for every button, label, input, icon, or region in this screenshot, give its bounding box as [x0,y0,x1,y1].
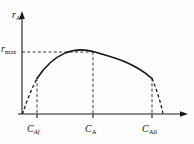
y-axis-label-subscript: A [16,14,21,21]
figure-container: rA rmax CAf CA CA0 [0,0,194,144]
rmax-label-subscript: max [5,48,16,55]
rmax-label: rmax [1,44,16,54]
ca-label-subscript: A [92,128,97,135]
ca-label: CA [85,124,97,134]
ca0-label: CA0 [142,124,157,134]
caf-label: CAf [27,124,40,134]
ca0-label-subscript: A0 [149,128,157,135]
ca0-label-text: C [142,123,149,134]
y-axis-label: rA [12,10,21,20]
caf-label-text: C [27,123,34,134]
curve-segment-dashed-left [23,79,38,115]
ca-label-text: C [85,123,92,134]
x-axis-arrow-icon [180,111,188,116]
caf-label-subscript: Af [34,128,40,135]
curve-segment-solid [37,50,152,79]
curve-segment-dashed-right [152,79,163,114]
